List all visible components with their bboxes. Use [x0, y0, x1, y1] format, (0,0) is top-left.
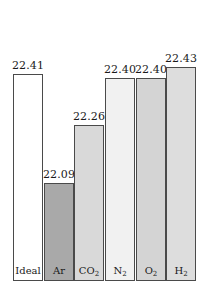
- bar-value-label-h2: 22.43: [165, 53, 197, 64]
- bar-category-label-ar: Ar: [45, 265, 73, 276]
- bar-category-label-co2: CO2: [75, 265, 103, 276]
- bar-group-h2: H222.43: [166, 0, 196, 281]
- bar-group-ar: Ar22.09: [44, 0, 74, 281]
- bar-value-label-n2: 22.40: [104, 64, 136, 75]
- bar-value-label-o2: 22.40: [135, 64, 167, 75]
- bar-category-label-h2: H2: [167, 265, 195, 276]
- bar-group-co2: CO222.26: [74, 0, 104, 281]
- bar-group-ideal: Ideal22.41: [13, 0, 43, 281]
- bar-value-label-ar: 22.09: [43, 169, 75, 180]
- bar-o2: O2: [136, 78, 166, 281]
- bar-h2: H2: [166, 67, 196, 281]
- bar-ideal: Ideal: [13, 74, 43, 281]
- plot-area: Ideal22.41Ar22.09CO222.26N222.40O222.40H…: [13, 0, 197, 281]
- molar-volume-bar-chart: Ideal22.41Ar22.09CO222.26N222.40O222.40H…: [0, 0, 211, 287]
- bar-ar: Ar: [44, 183, 74, 281]
- bar-group-n2: N222.40: [105, 0, 135, 281]
- bar-value-label-ideal: 22.41: [12, 60, 44, 71]
- bar-n2: N2: [105, 78, 135, 281]
- bar-co2: CO2: [74, 125, 104, 281]
- bar-category-label-n2: N2: [106, 265, 134, 276]
- bar-category-label-o2: O2: [137, 265, 165, 276]
- bar-value-label-co2: 22.26: [73, 111, 105, 122]
- bar-category-label-ideal: Ideal: [14, 265, 42, 276]
- bar-group-o2: O222.40: [136, 0, 166, 281]
